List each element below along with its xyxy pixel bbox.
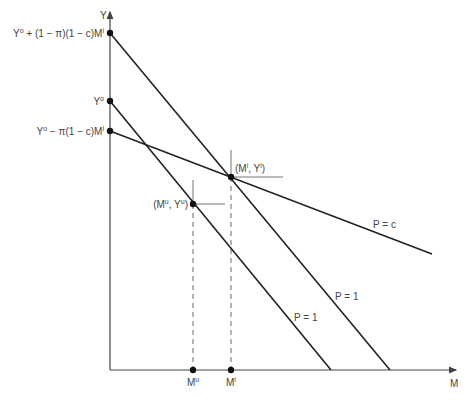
- informed-point: [228, 174, 234, 180]
- line-p1-upper-label: P = 1: [335, 291, 359, 302]
- mu-axis-dot: [190, 367, 196, 373]
- line-pc-label: P = c: [373, 219, 396, 230]
- mi-axis-dot: [228, 367, 234, 373]
- y-axis-label: Y: [100, 10, 107, 21]
- x-axis-label: M: [450, 378, 458, 389]
- uninformed-point: [190, 201, 196, 207]
- line-pc: [110, 131, 432, 254]
- informed-point-label: (Mi, Yi): [235, 162, 265, 174]
- intercept-bottom-dot: [107, 128, 113, 134]
- intercept-top-dot: [107, 30, 113, 36]
- line-p1-lower: [110, 101, 331, 370]
- intercept-top-label: Yo + (1 − π)(1 − c)Mi: [13, 27, 104, 39]
- intercept-bottom-label: Yo − π(1 − c)Mi: [37, 125, 105, 137]
- mi-tick-label: Mi: [226, 376, 236, 388]
- diagram: Y M Yo + (1 − π)(1 − c)Mi Yo Yo − π(1 − …: [0, 0, 469, 400]
- line-p1-lower-label: P = 1: [294, 312, 318, 323]
- intercept-middle-dot: [107, 98, 113, 104]
- mu-tick-label: Mu: [187, 376, 199, 388]
- intercept-middle-label: Yo: [93, 95, 104, 107]
- line-p1-upper: [110, 33, 390, 370]
- uninformed-point-label: (Mu, Yu): [153, 198, 188, 210]
